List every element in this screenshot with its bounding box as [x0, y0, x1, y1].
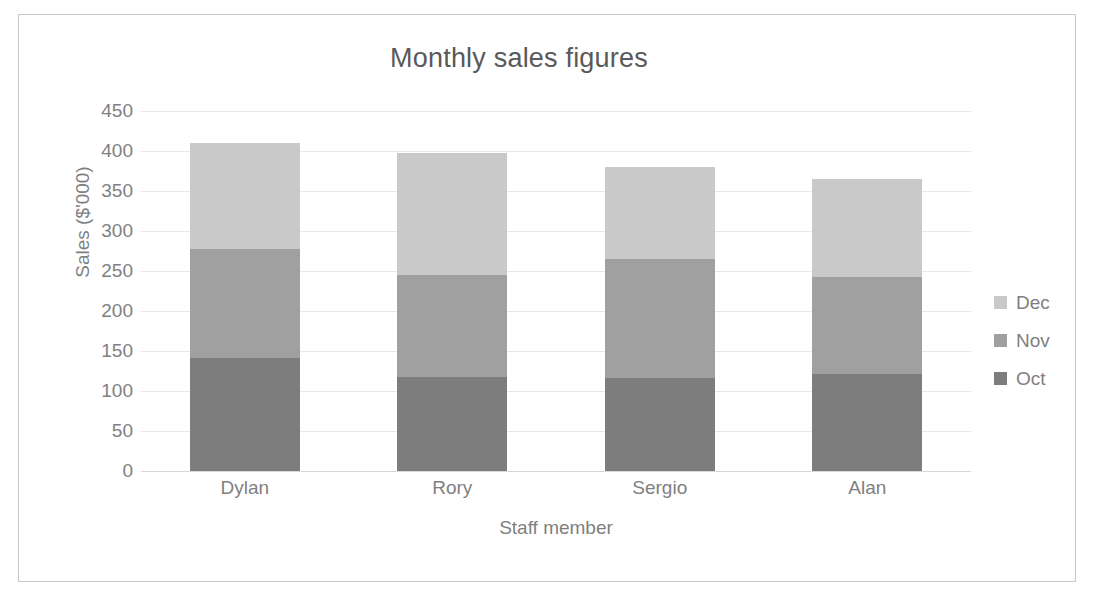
legend-label: Dec [1016, 293, 1050, 312]
gridline [141, 111, 971, 112]
bar-segment-dec[interactable] [190, 143, 300, 249]
bar-segment-oct[interactable] [397, 377, 507, 471]
chart-legend: DecNovOct [994, 283, 1097, 397]
legend-swatch-icon [994, 334, 1007, 347]
x-axis-tick-labels: DylanRorySergioAlan [141, 477, 971, 513]
y-axis-tick-label: 400 [73, 140, 133, 162]
bar-segment-nov[interactable] [397, 275, 507, 377]
x-axis-tick-label: Alan [777, 477, 957, 499]
bar-segment-nov[interactable] [812, 277, 922, 374]
bar-group[interactable] [812, 179, 922, 471]
y-axis-tick-label: 100 [73, 380, 133, 402]
bar-group[interactable] [605, 167, 715, 471]
y-axis-tick-label: 200 [73, 300, 133, 322]
y-axis-tick-label: 300 [73, 220, 133, 242]
x-axis-tick-label: Dylan [155, 477, 335, 499]
y-axis-tick-label: 150 [73, 340, 133, 362]
bar-segment-nov[interactable] [190, 249, 300, 359]
y-axis-tick-label: 0 [73, 460, 133, 482]
legend-label: Oct [1016, 369, 1046, 388]
legend-swatch-icon [994, 296, 1007, 309]
bar-segment-oct[interactable] [605, 378, 715, 471]
y-axis-tick-label: 350 [73, 180, 133, 202]
legend-item-dec[interactable]: Dec [994, 283, 1097, 321]
bar-segment-dec[interactable] [812, 179, 922, 277]
bar-segment-oct[interactable] [812, 374, 922, 471]
x-axis-tick-label: Rory [362, 477, 542, 499]
x-axis-tick-label: Sergio [570, 477, 750, 499]
legend-swatch-icon [994, 372, 1007, 385]
legend-label: Nov [1016, 331, 1050, 350]
bar-segment-dec[interactable] [605, 167, 715, 259]
legend-item-nov[interactable]: Nov [994, 321, 1097, 359]
y-axis-tick-label: 250 [73, 260, 133, 282]
bar-segment-dec[interactable] [397, 153, 507, 275]
legend-item-oct[interactable]: Oct [994, 359, 1097, 397]
plot-area [141, 111, 971, 471]
y-axis-tick-label: 450 [73, 100, 133, 122]
chart-container: Monthly sales figures Sales ($'000) 0501… [18, 14, 1076, 582]
x-axis-title: Staff member [141, 517, 971, 539]
gridline [141, 471, 971, 472]
bar-segment-oct[interactable] [190, 358, 300, 471]
y-axis-tick-label: 50 [73, 420, 133, 442]
bar-group[interactable] [397, 153, 507, 471]
chart-title: Monthly sales figures [19, 43, 1019, 74]
y-axis-tick-labels: 050100150200250300350400450 [67, 111, 133, 471]
bar-segment-nov[interactable] [605, 259, 715, 378]
bar-group[interactable] [190, 143, 300, 471]
